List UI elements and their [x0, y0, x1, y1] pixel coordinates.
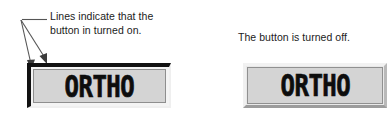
- leader-prong-left: [21, 20, 31, 64]
- ortho-button-on[interactable]: ORTHO: [27, 63, 171, 108]
- ortho-button-off-face: ORTHO: [247, 67, 383, 104]
- off-state-caption: The button is turned off.: [238, 30, 350, 44]
- callout-line-1: Lines indicate that the: [50, 9, 178, 23]
- ortho-button-off-label: ORTHO: [280, 70, 350, 101]
- callout-text-block: Lines indicate that the button in turned…: [50, 9, 178, 37]
- callout-line-2: button in turned on.: [50, 23, 178, 37]
- ortho-button-on-label: ORTHO: [65, 71, 135, 102]
- ortho-button-off[interactable]: ORTHO: [243, 63, 387, 108]
- leader-prong-right: [21, 20, 45, 58]
- ortho-button-on-face: ORTHO: [33, 69, 166, 103]
